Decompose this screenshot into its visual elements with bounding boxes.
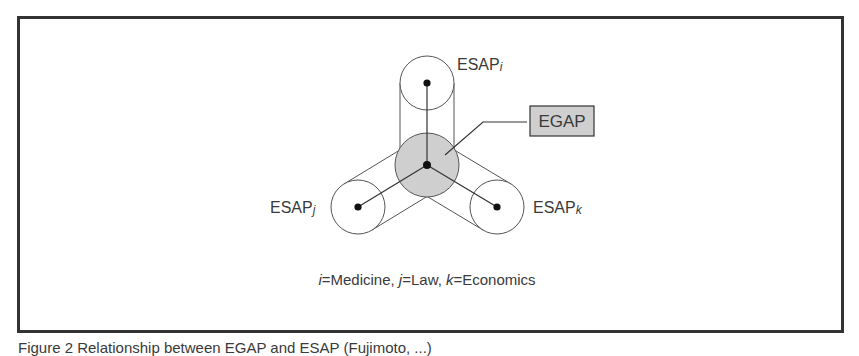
egap-label: EGAP [538,112,585,131]
legend-text-k: =Economics [453,271,535,288]
node-dot-i [423,79,430,86]
variable-legend: i=Medicine, j=Law, k=Economics [318,271,535,288]
esap-i-sub: i [500,60,503,74]
node-dot-j [354,203,361,210]
center-dot [423,161,431,169]
esap-k-base: ESAP [533,199,576,216]
esap-i-base: ESAP [457,56,500,73]
esap-j-label: ESAPj [270,199,316,217]
esap-k-label: ESAPk [533,199,583,217]
esap-i-label: ESAPi [457,56,503,74]
legend-text-i: =Medicine, [322,271,399,288]
esap-k-sub: k [576,203,583,217]
esap-j-base: ESAP [270,199,313,216]
figure-caption: Figure 2 Relationship between EGAP and E… [18,339,432,356]
node-dot-k [493,203,500,210]
legend-text-j: =Law, [402,271,446,288]
